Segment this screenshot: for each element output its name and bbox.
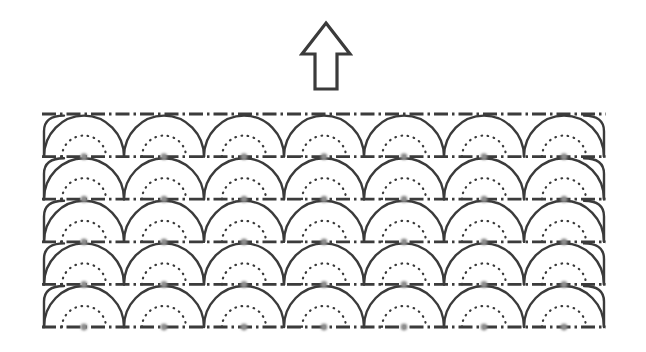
arch-center-dot [81,196,88,203]
arch-center-dot [241,281,248,288]
arch-center-dot [161,324,168,331]
arch-center-dot [161,238,168,245]
arch-center-dot [401,238,408,245]
arch-center-dot [81,281,88,288]
arch-center-dot [161,153,168,160]
arch-center-dot [481,196,488,203]
arch-center-dot [321,196,328,203]
arch-center-dot [81,238,88,245]
arch-center-dot [241,324,248,331]
arch-center-dot [481,238,488,245]
arch-center-dot [81,324,88,331]
arch-center-dot [481,324,488,331]
figure-root [0,0,646,352]
arch-center-dot [561,324,568,331]
arch-center-dot [561,238,568,245]
arch-center-dot [401,324,408,331]
arch-center-dot [161,281,168,288]
arch-center-dot [561,153,568,160]
arch-center-dot [161,196,168,203]
arch-center-dot [481,153,488,160]
arch-center-dot [321,324,328,331]
arch-center-dot [241,196,248,203]
arch-center-dot [321,153,328,160]
arch-center-dot [241,238,248,245]
arch-center-dot [241,153,248,160]
arch-center-dot [561,196,568,203]
arch-center-dot [401,153,408,160]
arch-center-dot [561,281,568,288]
figure-canvas [0,0,646,352]
arch-center-dot [321,238,328,245]
arch-center-dot [321,281,328,288]
arch-center-dot [481,281,488,288]
arch-center-dot [81,153,88,160]
arch-center-dot [401,281,408,288]
arch-center-dot [401,196,408,203]
